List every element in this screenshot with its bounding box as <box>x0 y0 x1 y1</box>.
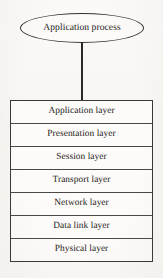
layer-row-data-link[interactable]: Data link layer <box>11 216 152 239</box>
layer-label-presentation: Presentation layer <box>47 130 115 139</box>
layer-row-presentation[interactable]: Presentation layer <box>11 124 152 147</box>
application-process-label: Application process <box>43 23 120 33</box>
layer-row-network[interactable]: Network layer <box>11 193 152 216</box>
layer-row-transport[interactable]: Transport layer <box>11 170 152 193</box>
layer-label-physical: Physical layer <box>55 245 109 254</box>
layer-label-network: Network layer <box>54 199 109 208</box>
layer-row-application[interactable]: Application layer <box>11 101 152 124</box>
layer-label-session: Session layer <box>56 153 106 162</box>
osi-layer-diagram: Application process Application layer Pr… <box>0 0 163 278</box>
layer-label-transport: Transport layer <box>53 176 111 185</box>
layer-label-data-link: Data link layer <box>53 222 109 231</box>
layer-label-application: Application layer <box>48 107 114 116</box>
layer-row-physical[interactable]: Physical layer <box>11 239 152 261</box>
application-process-node[interactable]: Application process <box>20 13 144 43</box>
layer-row-session[interactable]: Session layer <box>11 147 152 170</box>
process-to-stack-connector <box>81 42 83 101</box>
layer-stack: Application layer Presentation layer Ses… <box>10 100 153 262</box>
